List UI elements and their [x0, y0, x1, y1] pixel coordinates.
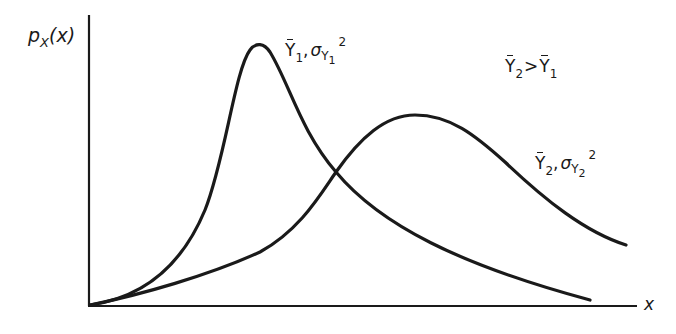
curve-1-sigma-sub: Y	[321, 49, 328, 63]
x-axis-label: x	[644, 296, 654, 313]
y-axis-label-subscript: X	[40, 35, 49, 50]
relation-right: Y	[539, 58, 549, 75]
curve-1-sigma: σ	[310, 40, 321, 60]
curve-2-sigma-sub: Y	[571, 162, 578, 176]
x-axis-label-text: x	[644, 294, 654, 314]
density-curve-2	[90, 115, 626, 305]
curve-2-mean: Y	[535, 155, 545, 172]
y-axis-label-arg: (x)	[49, 24, 75, 46]
y-axis-label-main: p	[28, 24, 40, 46]
distribution-diagram: pX(x) x Y1,σY12 Y2>Y1 Y2,σY22	[0, 0, 676, 334]
curve-1-sigma-sub-sub: 1	[329, 54, 336, 67]
relation-label: Y2>Y1	[505, 58, 557, 75]
curve-2-sigma: σ	[560, 153, 571, 173]
curve-2-mean-sub: 2	[545, 164, 553, 178]
curve-2-label: Y2,σY22	[535, 155, 596, 172]
curve-1-power: 2	[339, 35, 347, 49]
curve-1-sep: ,	[303, 40, 308, 60]
curve-1-mean-sub: 1	[295, 51, 303, 65]
curve-2-sigma-sub-sub: 2	[579, 167, 586, 180]
y-axis-label: pX(x)	[28, 26, 75, 45]
relation-right-sub: 1	[550, 67, 558, 81]
relation-op: >	[524, 56, 538, 76]
curve-2-sep: ,	[553, 153, 558, 173]
relation-left: Y	[505, 58, 515, 75]
curve-1-mean: Y	[285, 42, 295, 59]
curve-2-power: 2	[589, 148, 597, 162]
density-curve-1	[90, 45, 590, 305]
relation-left-sub: 2	[515, 67, 523, 81]
curve-1-label: Y1,σY12	[285, 42, 346, 59]
